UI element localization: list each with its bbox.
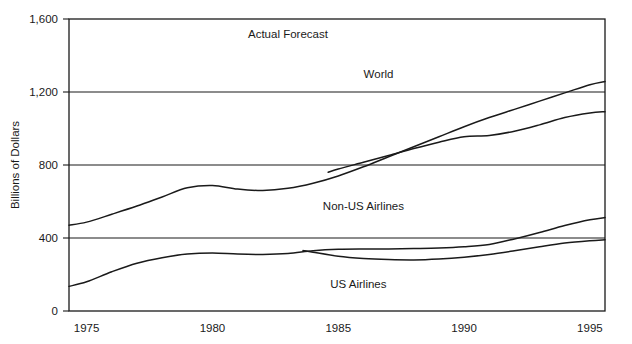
series-line [69, 218, 605, 287]
y-axis-title: Billions of Dollars [9, 121, 21, 209]
y-tick-labels: 04008001,2001,600 [29, 13, 58, 317]
y-tick-label: 800 [39, 159, 58, 171]
chart-annotation-label: World [364, 68, 394, 80]
y-tick-label: 1,600 [29, 13, 58, 25]
y-tick-label: 0 [52, 305, 58, 317]
series-paths [69, 81, 605, 286]
chart-annotation-label: Actual Forecast [248, 28, 329, 40]
chart-annotation-label: Non-US Airlines [323, 200, 404, 212]
y-tick-label: 1,200 [29, 86, 58, 98]
line-chart: Billions of Dollars 04008001,2001,600 19… [0, 0, 632, 344]
x-tick-label: 1995 [577, 322, 603, 334]
x-tick-label: 1990 [451, 322, 477, 334]
chart-figure: Billions of Dollars 04008001,2001,600 19… [0, 0, 632, 344]
grid-lines [69, 92, 605, 238]
y-tick-label: 400 [39, 232, 58, 244]
x-tick-label: 1985 [325, 322, 351, 334]
series-line [303, 240, 605, 260]
y-tick-marks [63, 19, 69, 311]
x-tick-label: 1980 [200, 322, 226, 334]
x-tick-label: 1975 [74, 322, 100, 334]
y-axis-title-label: Billions of Dollars [9, 121, 21, 209]
chart-annotation-label: US Airlines [330, 278, 386, 290]
x-tick-labels: 19751980198519901995 [74, 322, 603, 334]
series-line [328, 112, 605, 173]
